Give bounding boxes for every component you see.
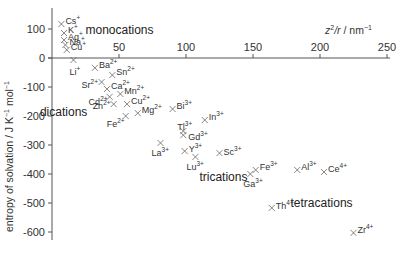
data-point: Ce4+	[321, 162, 347, 175]
y-tick-label: -600	[23, 226, 45, 238]
ion-label: Ce4+	[328, 162, 347, 174]
x-marker-icon	[217, 150, 223, 156]
data-point: Y3+	[182, 142, 203, 154]
x-marker-icon	[92, 65, 98, 71]
x-marker-icon	[117, 91, 123, 97]
x-tick-label: 200	[311, 41, 329, 53]
scatter-chart: 501001502002501000-100-200-300-400-500-6…	[0, 0, 417, 254]
x-marker-icon	[247, 171, 253, 177]
ion-label: In3+	[209, 110, 224, 122]
x-marker-icon	[351, 230, 357, 236]
ion-label: Sc3+	[224, 145, 242, 157]
ion-label: Gd3+	[188, 130, 208, 142]
y-tick-label: -100	[23, 81, 45, 93]
data-point: Fe3+	[253, 160, 278, 173]
x-axis-label: z2/r / nm−1	[324, 24, 372, 36]
ion-label: Y3+	[189, 142, 203, 154]
x-marker-icon	[61, 37, 67, 43]
data-point: Lu3+	[186, 154, 204, 172]
x-marker-icon	[180, 132, 186, 138]
x-marker-icon	[321, 169, 327, 175]
y-tick-label: -300	[23, 139, 45, 151]
x-tick-label: 150	[244, 41, 262, 53]
ion-label: Fe2+	[107, 117, 125, 129]
group-label: trications	[199, 170, 247, 184]
data-point: Al3+	[294, 160, 317, 173]
y-tick-label: 0	[39, 52, 45, 64]
x-marker-icon	[58, 21, 64, 27]
ion-label: Sr2+	[82, 78, 99, 90]
group-labels: monocationsdicationstricationstetracatio…	[40, 23, 353, 210]
ion-label: Li+	[69, 65, 80, 77]
y-tick-label: 100	[27, 23, 45, 35]
x-marker-icon	[64, 47, 70, 53]
ion-label: Bi3+	[177, 99, 193, 111]
x-marker-icon	[109, 72, 115, 78]
ion-label: Zr4+	[358, 223, 374, 235]
ion-label: Fe3+	[260, 160, 278, 172]
group-label: monocations	[86, 23, 154, 37]
group-label: tetracations	[291, 196, 353, 210]
x-tick-label: 100	[177, 41, 195, 53]
data-point: Zr4+	[351, 223, 374, 236]
data-point: Zn2+	[93, 99, 117, 111]
x-marker-icon	[269, 205, 275, 211]
x-marker-icon	[61, 30, 67, 36]
data-point: Bi3+	[170, 99, 193, 112]
data-point: Li+	[69, 57, 80, 77]
ion-label: Cu+	[71, 40, 87, 52]
x-marker-icon	[62, 42, 68, 48]
y-tick-label: -500	[23, 197, 45, 209]
x-marker-icon	[99, 79, 105, 85]
x-tick-label: 50	[113, 41, 125, 53]
x-marker-icon	[170, 106, 176, 112]
ion-label: La3+	[152, 146, 170, 158]
x-tick-label: 250	[378, 41, 396, 53]
x-marker-icon	[294, 167, 300, 173]
group-label: dications	[40, 105, 87, 119]
y-axis-label: entropy of solvation / J K−1 mol−1	[3, 81, 15, 232]
ion-label: Mn2+	[124, 84, 144, 96]
x-marker-icon	[111, 101, 117, 107]
x-marker-icon	[253, 167, 259, 173]
x-marker-icon	[182, 148, 188, 154]
y-tick-label: -400	[23, 168, 45, 180]
data-point: Sr2+	[82, 78, 105, 90]
data-point: Sn2+	[109, 65, 135, 78]
x-marker-icon	[104, 86, 110, 92]
data-point: Fe2+	[107, 113, 129, 129]
data-point: In3+	[202, 110, 224, 123]
ion-label: Sn2+	[116, 65, 135, 77]
data-point: Sc3+	[217, 145, 242, 157]
x-marker-icon	[135, 110, 141, 116]
ion-label: Mg2+	[142, 103, 162, 115]
x-marker-icon	[124, 101, 130, 107]
ion-label: Al3+	[301, 160, 317, 172]
x-marker-icon	[202, 117, 208, 123]
data-point: La3+	[152, 140, 170, 158]
ion-label: Ba2+	[99, 58, 118, 70]
ion-label: Tl3+	[177, 120, 192, 132]
ion-label: Zn2+	[93, 99, 111, 111]
data-point: Ba2+	[92, 58, 118, 71]
